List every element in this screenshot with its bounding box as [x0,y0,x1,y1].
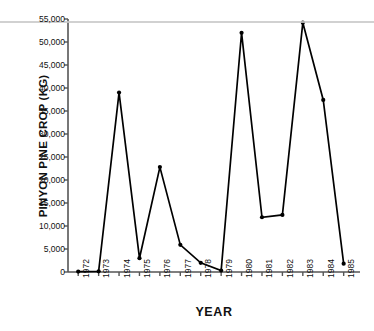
y-axis-tick-label: 25,000 [39,153,65,162]
x-axis-tick-label: 1974 [123,259,132,278]
data-point-marker [280,213,284,217]
x-axis-tick-label: 1976 [163,259,172,278]
data-point-marker [239,31,243,35]
y-axis-tick-label: 50,000 [39,38,65,47]
x-axis-tick-label: 1980 [245,259,254,278]
data-point-marker [260,215,264,219]
y-axis-tick-label: 15,000 [39,199,65,208]
y-axis-title: PINYON PINE CROP (KG) [37,46,49,246]
y-axis-tick-label: 30,000 [39,130,65,139]
x-axis-tick-label: 1984 [327,259,336,278]
y-axis-tick-label: 20,000 [39,176,65,185]
x-axis-tick-label: 1981 [265,259,274,278]
plot-area [0,0,374,331]
data-point-marker [178,243,182,247]
y-axis-tick-label: 45,000 [39,61,65,70]
x-axis-tick-label: 1973 [102,259,111,278]
data-point-marker [137,256,141,260]
data-series-line [78,23,343,272]
y-axis-tick-label: 55,000 [39,15,65,24]
x-axis-tick-label: 1975 [143,259,152,278]
x-axis-tick-label: 1982 [286,259,295,278]
y-axis-tick-label: 40,000 [39,84,65,93]
x-axis-title: YEAR [68,305,360,319]
y-axis-tick-label: 10,000 [39,222,65,231]
x-axis-tick-label: 1978 [204,259,213,278]
data-point-marker [219,269,223,273]
y-axis-tick-label: 35,000 [39,107,65,116]
x-axis-tick-label: 1985 [347,259,356,278]
y-axis-tick-label: 0 [60,268,65,277]
data-point-marker [158,165,162,169]
data-point-marker [76,269,80,273]
data-point-marker [301,21,305,25]
pinyon-pine-crop-chart: PINYON PINE CROP (KG) YEAR 05,00010,0001… [0,0,374,331]
x-axis-tick-label: 1972 [82,259,91,278]
y-axis-tick-label: 5,000 [44,245,65,254]
x-axis-tick-label: 1979 [225,259,234,278]
data-point-marker [117,91,121,95]
x-axis-tick-label: 1977 [184,259,193,278]
x-axis-tick-label: 1983 [306,259,315,278]
data-point-marker [321,98,325,102]
